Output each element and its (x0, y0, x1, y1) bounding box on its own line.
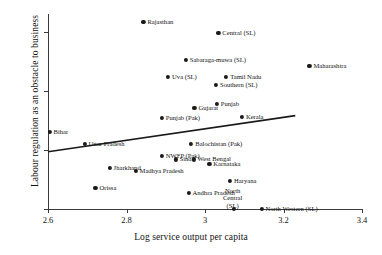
data-point-label: Madhya Pradesh (140, 167, 184, 174)
scatter-chart: Labour regulation as an obstacle to busi… (0, 0, 382, 255)
data-point-label: Southern (SL) (220, 81, 258, 88)
x-tick (205, 209, 206, 213)
data-point-label: Bihar (54, 128, 69, 135)
x-tick (48, 209, 49, 213)
data-point-label: Uva (SL) (172, 74, 197, 81)
data-point-label: North Western (SL) (266, 205, 318, 212)
plot-area: 0.1.2.3 2.62.833.23.4 RajasthanCentral (… (48, 14, 362, 209)
x-tick-label: 3.4 (357, 215, 368, 225)
data-point-label: Kerala (246, 113, 264, 120)
y-axis-title: Labour regulation as an obstacle to busi… (30, 6, 40, 196)
x-tick-label: 2.6 (43, 215, 54, 225)
data-point-label: Sabaraga-muwa (SL) (190, 56, 246, 63)
x-axis-title: Log service output per capita (0, 232, 382, 242)
data-point-label: Rajasthan (147, 19, 173, 26)
data-point-label: Karnataka (213, 160, 240, 167)
data-point-label: Gujarat (198, 104, 218, 111)
data-point-label: Punjab (221, 100, 239, 107)
data-point-label: Tamil Nadu (230, 74, 261, 81)
x-tick-label: 3 (203, 215, 207, 225)
data-point-label: North Central (SL) (223, 187, 242, 209)
x-tick-label: 3.2 (278, 215, 289, 225)
data-point-label: Sind (180, 156, 192, 163)
data-point-label: Haryana (234, 177, 256, 184)
x-tick (127, 209, 128, 213)
data-point[interactable] (259, 207, 263, 211)
data-point-label: Balochistan (Pak) (195, 140, 242, 147)
x-tick-label: 2.8 (121, 215, 132, 225)
data-point-label: Maharashtra (313, 62, 346, 69)
data-point-label: Orissa (99, 184, 116, 191)
x-tick (362, 209, 363, 213)
data-point-label: Uttar Pradesh (89, 140, 125, 147)
data-point-label: Punjab (Pak) (166, 114, 200, 121)
data-point-label: Central (SL) (222, 29, 255, 36)
